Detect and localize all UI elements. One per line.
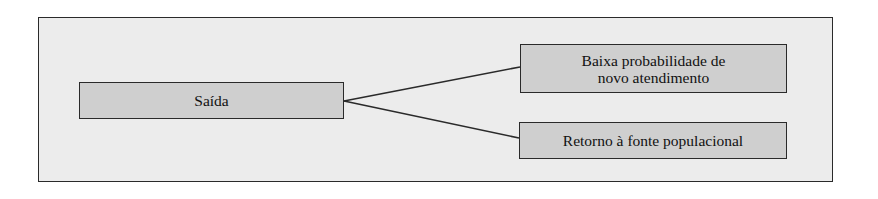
node-baixa-probabilidade: Baixa probabilidade de novo atendimento xyxy=(520,44,787,93)
node-retorno-fonte-populacional: Retorno à fonte populacional xyxy=(519,122,787,159)
node-saida-label: Saída xyxy=(194,92,228,109)
node-retorno-label: Retorno à fonte populacional xyxy=(563,132,743,149)
node-baixa-label-line-1: Baixa probabilidade de xyxy=(582,52,726,69)
node-saida: Saída xyxy=(79,82,344,119)
node-baixa-label-line-2: novo atendimento xyxy=(582,69,726,86)
